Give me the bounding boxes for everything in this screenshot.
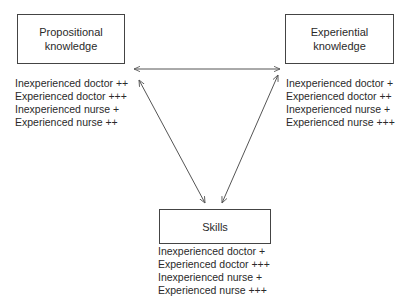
- rating-item: Inexperienced doctor +: [286, 77, 395, 90]
- rating-item: Inexperienced nurse +: [286, 103, 395, 116]
- rating-item: Experienced doctor +++: [15, 90, 128, 103]
- arrow-propositional-skills: [139, 80, 205, 203]
- rating-item: Experienced nurse +++: [158, 284, 270, 297]
- rating-item: Experienced nurse ++: [15, 116, 128, 129]
- experiential-ratings: Inexperienced doctor + Experienced docto…: [286, 77, 395, 129]
- propositional-title-line1: Propositional: [39, 25, 103, 39]
- rating-item: Experienced nurse +++: [286, 116, 395, 129]
- rating-item: Experienced doctor +++: [158, 258, 270, 271]
- rating-item: Inexperienced doctor +: [158, 245, 270, 258]
- propositional-title-line2: knowledge: [39, 39, 103, 53]
- skills-box: Skills: [159, 209, 271, 244]
- rating-item: Inexperienced nurse +: [15, 103, 128, 116]
- skills-title: Skills: [202, 220, 228, 234]
- propositional-knowledge-box: Propositional knowledge: [17, 14, 125, 64]
- rating-item: Experienced doctor ++: [286, 90, 395, 103]
- experiential-title-line2: knowledge: [311, 39, 368, 53]
- arrow-experiential-skills: [222, 75, 278, 203]
- rating-item: Inexperienced doctor ++: [15, 77, 128, 90]
- experiential-knowledge-box: Experiential knowledge: [285, 14, 394, 64]
- propositional-ratings: Inexperienced doctor ++ Experienced doct…: [15, 77, 128, 129]
- experiential-title-line1: Experiential: [311, 25, 368, 39]
- rating-item: Inexperienced nurse +: [158, 271, 270, 284]
- skills-ratings: Inexperienced doctor + Experienced docto…: [158, 245, 270, 297]
